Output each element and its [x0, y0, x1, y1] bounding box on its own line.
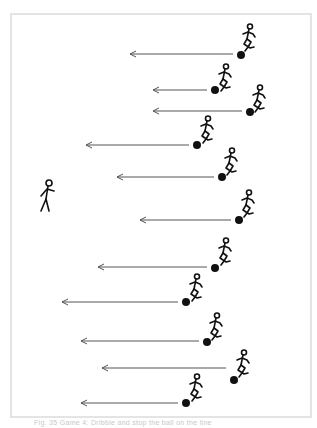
dribble-lane-7 — [98, 238, 231, 272]
ball-icon — [235, 216, 243, 224]
dribbling-player-figure — [243, 24, 255, 51]
dribbling-player-figure — [210, 313, 222, 340]
dribbling-player-figure — [201, 116, 213, 143]
dribble-lane-6 — [140, 190, 254, 224]
ball-icon — [246, 108, 254, 116]
ball-icon — [182, 399, 190, 407]
dribble-lane-9 — [81, 313, 222, 346]
ball-icon — [218, 173, 226, 181]
dribble-lane-10 — [102, 350, 249, 384]
dribbling-player-figure — [237, 350, 249, 377]
ball-icon — [237, 51, 245, 59]
drill-diagram — [0, 0, 317, 428]
dribble-lane-2 — [153, 64, 231, 94]
standing-player-figure — [41, 180, 54, 211]
dribble-lane-8 — [62, 274, 202, 306]
ball-icon — [211, 86, 219, 94]
dribbling-player-figure — [219, 238, 231, 265]
dribbling-player-figure — [190, 274, 202, 301]
dribbling-player-figure — [253, 85, 265, 112]
dribble-lane-1 — [130, 24, 255, 59]
dribbling-player-figure — [219, 64, 231, 91]
dribble-lane-4 — [86, 116, 213, 149]
dribbling-player-figure — [242, 190, 254, 217]
ball-icon — [203, 338, 211, 346]
ball-icon — [211, 264, 219, 272]
dribble-lane-11 — [81, 374, 202, 407]
dribbling-player-figure — [190, 374, 202, 401]
ball-icon — [182, 298, 190, 306]
ball-icon — [230, 376, 238, 384]
figure-caption: Fig. 35 Game 4: Dribble and stop the bal… — [34, 419, 212, 426]
dribbling-player-figure — [225, 148, 237, 175]
ball-icon — [193, 141, 201, 149]
dribble-lane-5 — [117, 148, 237, 181]
